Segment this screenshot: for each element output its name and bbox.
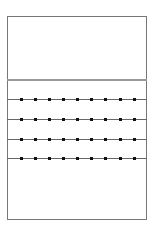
- point-dot: [62, 118, 65, 121]
- point-dot: [104, 118, 107, 121]
- point-dot: [90, 157, 93, 160]
- point-dot: [133, 138, 136, 141]
- point-dot: [34, 138, 37, 141]
- point-dot: [119, 138, 122, 141]
- point-dot: [76, 118, 79, 121]
- point-dot: [34, 98, 37, 101]
- point-dot: [20, 157, 23, 160]
- section-divider: [7, 79, 147, 81]
- point-dot: [90, 118, 93, 121]
- point-dot: [119, 157, 122, 160]
- point-dot: [76, 98, 79, 101]
- point-dot: [48, 157, 51, 160]
- point-dot: [104, 98, 107, 101]
- point-dot: [48, 118, 51, 121]
- point-dot: [133, 157, 136, 160]
- point-dot: [76, 138, 79, 141]
- point-dot: [62, 157, 65, 160]
- point-dot: [48, 98, 51, 101]
- point-dot: [20, 98, 23, 101]
- point-dot: [119, 98, 122, 101]
- point-dot: [76, 157, 79, 160]
- point-dot: [62, 98, 65, 101]
- point-dot: [104, 138, 107, 141]
- point-dot: [133, 118, 136, 121]
- point-dot: [34, 118, 37, 121]
- point-dot: [133, 98, 136, 101]
- point-dot: [90, 98, 93, 101]
- point-dot: [62, 138, 65, 141]
- point-dot: [34, 157, 37, 160]
- point-dot: [48, 138, 51, 141]
- point-dot: [104, 157, 107, 160]
- point-dot: [20, 138, 23, 141]
- point-dot: [20, 118, 23, 121]
- point-dot: [90, 138, 93, 141]
- point-dot: [119, 118, 122, 121]
